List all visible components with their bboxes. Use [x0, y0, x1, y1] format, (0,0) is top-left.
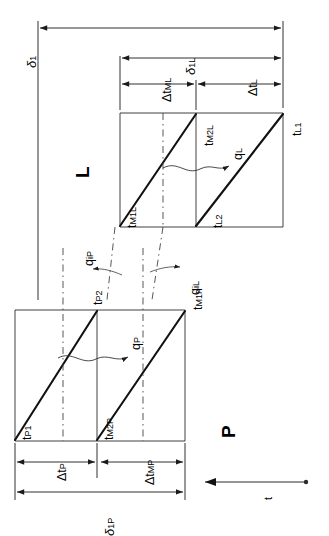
delta1P-base: δ [102, 529, 117, 536]
dtMP-base: Δt [143, 473, 157, 485]
delta1-base: δ [24, 61, 39, 68]
delta1L-sub: 1L [187, 58, 197, 68]
tM1L-sub: M1L [128, 207, 138, 225]
tM1P-base: t [191, 307, 205, 310]
qL-sub: L [234, 148, 244, 153]
axis-t-text: t [262, 497, 274, 500]
qiP-sub: iP [85, 251, 95, 259]
tL1-base: t [290, 133, 304, 136]
dashed-link-right [152, 227, 163, 300]
dtMP-sub: MP [146, 460, 156, 474]
interchange-arrow-ip [93, 269, 122, 275]
tP2-sub: P2 [94, 291, 104, 302]
regionL-text: L [72, 166, 93, 178]
dashed-link-left [107, 227, 115, 300]
tM1P-sub: M1P [194, 288, 204, 307]
tP1-sub: P1 [23, 426, 33, 437]
qP-sub: P [132, 337, 142, 343]
time-axis [205, 480, 308, 484]
tM2L-sub: M2L [205, 125, 215, 143]
dtML-base: Δt [160, 90, 174, 102]
tM2L-base: t [202, 143, 216, 146]
dtL-sub: L [249, 79, 259, 84]
qiL-sub: iL [191, 281, 201, 288]
delta1L-base: δ [183, 68, 198, 75]
tL2-base: t [211, 225, 225, 228]
tM2P-sub: M2P [105, 418, 115, 437]
tP1-base: t [20, 437, 34, 440]
qL-base: q [231, 153, 245, 160]
dtP-base: Δt [55, 469, 69, 481]
tM1L-base: t [125, 225, 139, 228]
qiP-base: q [82, 259, 96, 266]
delta1P-sub: 1P [106, 518, 116, 529]
tM2P-base: t [102, 437, 116, 440]
tP2-base: t [91, 302, 105, 305]
dtP-sub: P [58, 463, 68, 469]
regionP-text: P [218, 425, 239, 438]
tL1-sub: L1 [293, 123, 303, 133]
interchange-arrow-il [150, 267, 180, 272]
tL2-sub: L2 [214, 215, 224, 225]
delta1-sub: 1 [28, 56, 38, 61]
dtL-base: Δt [246, 84, 260, 96]
dtML-sub: ML [163, 78, 173, 91]
qP-base: q [129, 343, 143, 350]
